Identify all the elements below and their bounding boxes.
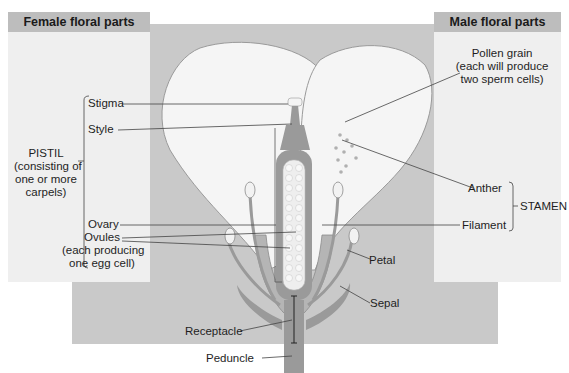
- label-pistil-line2: (consisting of: [14, 160, 78, 173]
- label-style: Style: [88, 123, 114, 136]
- label-ovary: Ovary: [88, 218, 119, 231]
- label-pollen-line3: two sperm cells): [452, 73, 552, 86]
- label-pistil-line4: carpels): [14, 186, 78, 199]
- label-petal: Petal: [369, 254, 395, 267]
- label-ovules-line3: one egg cell): [62, 257, 142, 270]
- label-stamen: STAMEN: [520, 200, 567, 213]
- label-anther: Anther: [468, 182, 502, 195]
- label-pollen-line1: Pollen grain: [452, 47, 552, 60]
- label-ovules-line2: (each producing: [62, 244, 142, 257]
- right-petal: [300, 46, 432, 270]
- stigma: [288, 98, 302, 106]
- label-pollen-line2: (each will produce: [452, 60, 552, 73]
- label-pistil-line3: one or more: [14, 173, 78, 186]
- label-receptacle: Receptacle: [185, 325, 243, 338]
- label-pistil: PISTIL (consisting of one or more carpel…: [14, 147, 78, 199]
- label-ovules-line1: Ovules: [62, 231, 142, 244]
- label-peduncle: Peduncle: [206, 352, 254, 365]
- label-ovules: Ovules (each producing one egg cell): [62, 231, 142, 270]
- label-stigma: Stigma: [88, 97, 124, 110]
- label-pistil-line1: PISTIL: [14, 147, 78, 160]
- label-pollen-grain: Pollen grain (each will produce two sper…: [452, 47, 552, 86]
- label-sepal: Sepal: [370, 297, 399, 310]
- label-filament: Filament: [462, 219, 506, 232]
